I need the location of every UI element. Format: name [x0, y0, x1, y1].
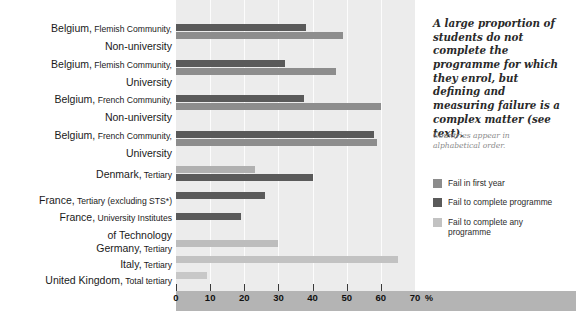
bar-group [176, 256, 415, 263]
axis-tick [347, 284, 348, 291]
axis-tick [313, 284, 314, 291]
legend-swatch-icon [433, 179, 442, 188]
axis-tick-label: 40 [307, 292, 318, 303]
legend: Fail in first yearFail to complete progr… [433, 178, 573, 246]
bar [176, 240, 278, 247]
x-axis: 010203040506070 [176, 284, 415, 312]
category-label-main: United Kingdom, [45, 274, 123, 286]
axis-tick-label: 70 [410, 292, 421, 303]
bar [176, 272, 207, 279]
pullquote-text: A large proportion of students do not co… [433, 17, 565, 140]
bar [176, 68, 336, 75]
category-label: Belgium, French Community,Non-university [0, 89, 172, 125]
category-label-qualifier: Tertiary (excluding STS*) [75, 196, 172, 206]
bar [176, 95, 304, 102]
category-label-main: Denmark, [96, 168, 142, 180]
axis-tick [244, 284, 245, 291]
category-label-main: Belgium, [54, 129, 95, 141]
axis-tick [278, 284, 279, 291]
bar-group [176, 60, 415, 75]
category-label-main: Belgium, [54, 93, 95, 105]
bar [176, 192, 265, 199]
category-label: Denmark, Tertiary [0, 164, 172, 182]
bar-group [176, 166, 415, 181]
axis-tick-label: 50 [341, 292, 352, 303]
legend-label: Fail to complete any programme [448, 217, 556, 238]
bar-group [176, 192, 415, 199]
bar [176, 174, 313, 181]
axis-tick-label: 0 [173, 292, 178, 303]
bar-group [176, 131, 415, 146]
category-label-main: France, [39, 194, 75, 206]
chart-rows: Belgium, Flemish Community,Non-universit… [0, 0, 415, 291]
legend-swatch-icon [433, 198, 442, 207]
axis-tick-label: 60 [376, 292, 387, 303]
bar-group [176, 213, 415, 220]
axis-tick-label: 30 [273, 292, 284, 303]
bar [176, 103, 381, 110]
category-label-main: Germany, [96, 242, 141, 254]
category-label-line2: Non-university [105, 111, 172, 123]
bar [176, 139, 377, 146]
legend-label: Fail to complete programme [448, 197, 552, 207]
category-label-line2: Non-university [105, 40, 172, 52]
bar [176, 166, 255, 173]
category-label-main: France, [60, 211, 96, 223]
category-label-main: Belgium, [51, 58, 92, 70]
category-label-qualifier: Tertiary [142, 244, 172, 254]
bar-group [176, 272, 415, 279]
axis-tick-label: 20 [239, 292, 250, 303]
category-label-line2: University [126, 76, 172, 88]
category-label-qualifier: Tertiary [142, 170, 172, 180]
category-label-qualifier: University Institutes [95, 213, 172, 223]
category-label-qualifier: Tertiary [142, 260, 172, 270]
category-label-qualifier: Flemish Community, [92, 24, 172, 34]
legend-swatch-icon [433, 218, 442, 227]
axis-unit-label: % [425, 293, 433, 303]
legend-item: Fail to complete any programme [433, 217, 573, 238]
category-label: Belgium, Flemish Community,University [0, 54, 172, 90]
bar [176, 24, 306, 31]
category-label: France, Tertiary (excluding STS*) [0, 190, 172, 208]
sort-note: Countries appear in alphabetical order. [433, 131, 555, 152]
category-label-main: Italy, [120, 258, 141, 270]
axis-tick [210, 284, 211, 291]
category-label: Belgium, Flemish Community,Non-universit… [0, 18, 172, 54]
bar-group [176, 24, 415, 39]
legend-label: Fail in first year [448, 178, 505, 188]
axis-tick [176, 284, 177, 291]
bar [176, 131, 374, 138]
category-label-qualifier: Total tertiary [123, 276, 172, 286]
bar [176, 213, 241, 220]
category-label: Belgium, French Community,University [0, 125, 172, 161]
bar [176, 32, 343, 39]
category-label-line2: University [126, 147, 172, 159]
bar-group [176, 240, 415, 247]
bar [176, 256, 398, 263]
legend-item: Fail to complete programme [433, 197, 573, 207]
axis-tick [381, 284, 382, 291]
bar-group [176, 95, 415, 110]
side-panel: A large proportion of students do not co… [415, 0, 576, 291]
legend-item: Fail in first year [433, 178, 573, 188]
category-label-qualifier: French Community, [95, 95, 172, 105]
bar [176, 60, 285, 67]
category-label: United Kingdom, Total tertiary [0, 270, 172, 288]
axis-tick-label: 10 [205, 292, 216, 303]
chart-figure: Belgium, Flemish Community,Non-universit… [0, 0, 576, 325]
category-label-qualifier: French Community, [95, 131, 172, 141]
category-label-main: Belgium, [51, 22, 92, 34]
category-label-qualifier: Flemish Community, [92, 60, 172, 70]
